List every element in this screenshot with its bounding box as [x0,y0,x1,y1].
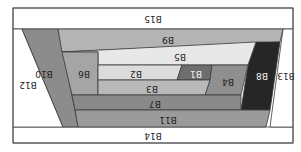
block-label: B7 [149,99,161,109]
block-label: B5 [174,52,186,62]
block-label: B11 [159,115,177,125]
block-label: B3 [146,84,158,94]
block-label: B12 [19,80,37,90]
block-b2: B2 [98,65,182,80]
block-b7: B7 [72,95,241,110]
block-b14: B14 [13,127,293,143]
block-label: B1 [190,69,202,79]
block-b11: B11 [75,110,270,127]
block-label: B15 [144,14,162,24]
diagram-canvas: B15B14B12B13B10B9B8B5B6B2B1B4B3B7B11 [0,0,301,152]
block-diagram: B15B14B12B13B10B9B8B5B6B2B1B4B3B7B11 [0,0,301,152]
block-label: B8 [256,71,268,81]
block-label: B14 [144,131,162,141]
block-label: B9 [162,35,174,45]
block-label: B2 [130,69,142,79]
block-b1: B1 [177,65,212,80]
block-label: B6 [78,69,90,79]
block-b15: B15 [13,8,293,29]
block-b4: B4 [205,65,248,95]
block-label: B10 [35,69,53,79]
block-b3: B3 [98,80,210,95]
block-label: B4 [222,77,234,87]
block-label: B13 [277,71,295,81]
